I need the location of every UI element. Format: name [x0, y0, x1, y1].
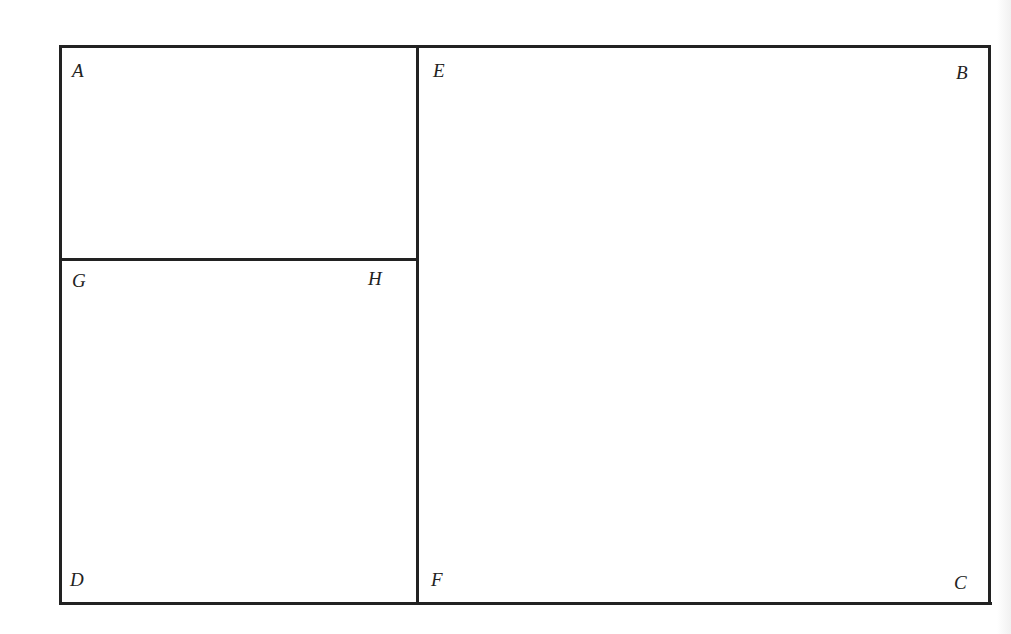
segment-AB [59, 45, 991, 48]
label-E: E [433, 61, 445, 80]
label-B: B [956, 63, 968, 82]
label-F: F [431, 570, 443, 589]
label-H: H [368, 269, 382, 288]
segment-BC [988, 45, 991, 605]
label-D: D [70, 570, 84, 589]
label-G: G [72, 271, 86, 290]
page-edge-shadow [997, 0, 1011, 634]
segment-DC [61, 602, 992, 605]
label-A: A [72, 61, 84, 80]
segment-EF [416, 45, 419, 605]
segment-GH [60, 258, 418, 261]
segment-AD [59, 45, 62, 605]
label-C: C [954, 573, 967, 592]
